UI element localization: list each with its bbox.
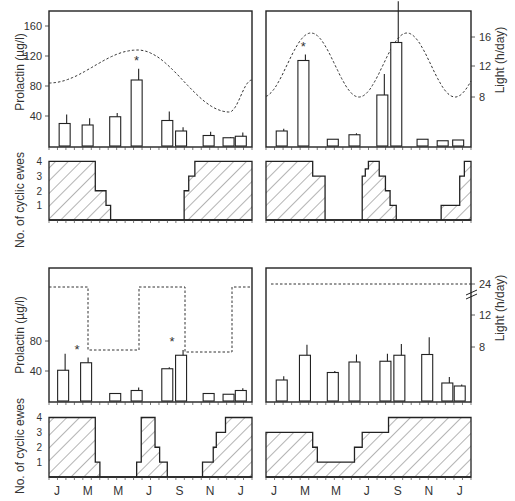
y2-tick-label: 24 <box>479 278 491 290</box>
cyclic-ewes-area <box>49 161 252 220</box>
prolactin-bar <box>110 394 121 402</box>
month-label: M <box>83 484 93 498</box>
prolactin-bar <box>223 394 234 401</box>
y2-tick-label: 16 <box>479 31 491 43</box>
prolactin-bar <box>394 355 405 401</box>
y-tick-label: 160 <box>24 20 42 32</box>
y-tick-label: 40 <box>30 365 42 377</box>
month-labels-left: JMMJSNJ <box>54 484 244 498</box>
significance-asterisk: * <box>170 334 175 349</box>
bar-panel-top-right <box>266 11 471 147</box>
month-label: S <box>394 484 402 498</box>
prolactin-bar <box>176 131 187 146</box>
y-tick-label: 40 <box>30 110 42 122</box>
month-label: J <box>54 484 60 498</box>
month-label: M <box>331 484 341 498</box>
month-label: J <box>238 484 244 498</box>
y2-tick-label: 8 <box>479 341 485 353</box>
month-label: N <box>424 484 433 498</box>
prolactin-bar <box>203 394 214 402</box>
bar-panel-bottom-right <box>266 268 471 402</box>
prolactin-bar <box>298 61 309 147</box>
prolactin-bar <box>276 131 287 146</box>
bar-panel-top-left <box>49 11 252 147</box>
significance-asterisk: * <box>134 53 139 68</box>
y2-tick-label: 8 <box>479 91 485 103</box>
prolactin-bar <box>59 124 70 147</box>
prolactin-bar <box>442 383 453 401</box>
prolactin-bar <box>235 391 246 402</box>
prolactin-bar <box>380 361 391 401</box>
figure: Prolactin (µg/l) No. of cyclic ewes Prol… <box>0 0 515 501</box>
light-curve <box>49 50 252 112</box>
prolactin-axis-label-top: Prolactin (µg/l) <box>13 33 27 111</box>
prolactin-bar <box>162 369 173 401</box>
prolactin-bar <box>223 138 234 146</box>
significance-asterisk: * <box>75 342 80 357</box>
month-label: J <box>364 484 370 498</box>
cyclic-tick-label: 3 <box>36 171 42 182</box>
prolactin-bar <box>176 355 187 401</box>
cyclic-tick-label: 4 <box>36 156 42 167</box>
prolactin-bar <box>391 43 402 147</box>
light-curve <box>266 33 471 97</box>
y-tick-label: 120 <box>24 50 42 62</box>
month-label: M <box>300 484 310 498</box>
cyclic-ewes-area <box>49 417 252 477</box>
prolactin-bar <box>81 363 92 401</box>
month-label: N <box>206 484 215 498</box>
prolactin-bar <box>162 121 173 147</box>
prolactin-bar <box>82 125 93 146</box>
cyclic-tick-label: 1 <box>36 200 42 211</box>
prolactin-bar <box>349 135 360 146</box>
cyclic-tick-label: 1 <box>36 457 42 468</box>
cyclic-tick-label: 2 <box>36 442 42 453</box>
cyclic-tick-label: 4 <box>36 412 42 423</box>
month-label: M <box>113 484 123 498</box>
cyclic-tick-label: 3 <box>36 427 42 438</box>
y-tick-label: 80 <box>30 80 42 92</box>
prolactin-bar <box>327 373 338 402</box>
prolactin-bar <box>110 117 121 146</box>
prolactin-bar <box>437 141 448 146</box>
prolactin-bar <box>454 386 465 401</box>
prolactin-bar <box>453 140 464 146</box>
prolactin-bar <box>235 136 246 146</box>
light-axis-label-bottom: Light (h/day) <box>493 275 507 342</box>
light-axis-label-top: Light (h/day) <box>493 27 507 94</box>
prolactin-bar <box>349 362 360 401</box>
prolactin-bar <box>131 80 142 146</box>
prolactin-axis-label-bottom: Prolactin (µg/l) <box>13 296 27 374</box>
prolactin-bar <box>377 95 388 146</box>
prolactin-bar <box>422 355 433 402</box>
prolactin-bar <box>327 139 338 146</box>
prolactin-bar <box>417 139 428 146</box>
cyclic-axis-label-bottom: No. of cyclic ewes <box>13 398 27 494</box>
prolactin-bar <box>203 136 214 147</box>
month-label: J <box>457 484 463 498</box>
prolactin-bar <box>276 380 287 401</box>
prolactin-bar <box>58 370 69 401</box>
month-label: S <box>176 484 184 498</box>
cyclic-ewes-area <box>266 161 471 220</box>
y2-tick-label: 12 <box>479 60 491 72</box>
month-labels-right: JMMJSNJ <box>271 484 463 498</box>
significance-asterisk: * <box>301 39 306 54</box>
month-label: J <box>271 484 277 498</box>
cyclic-tick-label: 2 <box>36 186 42 197</box>
bar-panel-bottom-left <box>49 268 252 402</box>
cyclic-ewes-area <box>266 417 471 477</box>
y-tick-label: 80 <box>30 335 42 347</box>
cyclic-axis-label-top: No. of cyclic ewes <box>13 152 27 248</box>
month-label: J <box>146 484 152 498</box>
panels: 4080120160*16128**4080**2412812341234 <box>24 0 492 480</box>
prolactin-bar <box>299 355 310 401</box>
y2-tick-label: 12 <box>479 309 491 321</box>
prolactin-bar <box>131 391 142 402</box>
